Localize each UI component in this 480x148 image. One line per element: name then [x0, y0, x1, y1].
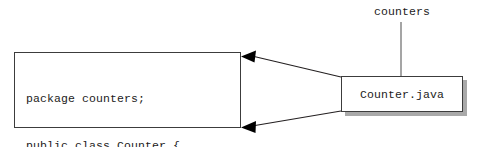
code-line: package counters; — [26, 91, 180, 107]
upper-expansion-arrowhead-icon — [241, 51, 256, 63]
file-node-label: Counter.java — [341, 76, 463, 112]
package-name-label: counters — [341, 5, 463, 18]
lower-expansion-arrowhead-icon — [241, 121, 256, 133]
code-line: public class Counter { — [26, 138, 180, 148]
diagram-canvas: counters package counters; public class … — [0, 0, 480, 147]
code-listing: package counters; public class Counter {… — [26, 60, 180, 147]
upper-expansion-edge-line — [252, 56, 341, 77]
lower-expansion-edge-line — [252, 111, 341, 126]
